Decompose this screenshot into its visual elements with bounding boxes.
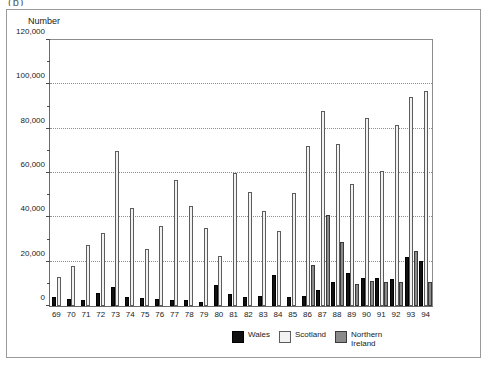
x-axis-tick-label: 90 [362,310,371,319]
bar-group [359,40,374,306]
y-axis-tick-label: 20,000 [21,248,45,257]
bar-wales [170,300,174,306]
y-axis-tick-label: 0 [41,293,45,302]
bar-group [270,40,285,306]
bar-group [182,40,197,306]
bar-group [314,40,329,306]
bar-scotland [365,118,369,306]
figure-panel: Number 020,00040,00060,00080,000100,0001… [6,9,481,358]
bar-wales [52,297,56,306]
x-axis-tick-label: 71 [81,310,90,319]
bar-scotland [101,233,105,306]
bar-scotland [306,146,310,306]
x-axis-tick-label: 87 [318,310,327,319]
bar-nireland [428,282,432,306]
bar-wales [228,294,232,306]
legend-item: Scotland [279,330,326,343]
bar-group [417,40,432,306]
x-axis-tick-label: 84 [273,310,282,319]
x-axis-tick-label: 75 [141,310,150,319]
bar-scotland [262,211,266,306]
x-axis-tick-label: 70 [67,310,76,319]
y-axis-tick-label: 80,000 [21,115,45,124]
bar-group [300,40,315,306]
legend-swatch-wales [232,331,244,343]
bar-scotland [204,228,208,306]
bar-group [168,40,183,306]
bar-wales [243,297,247,306]
bar-scotland [350,184,354,306]
x-axis-tick-label: 74 [126,310,135,319]
bar-wales [346,273,350,306]
bar-scotland [71,266,75,306]
bar-group [329,40,344,306]
bar-wales [140,298,144,306]
bar-group [109,40,124,306]
y-axis-tick-label: 60,000 [21,160,45,169]
bars-layer [50,40,432,306]
bar-wales [302,296,306,306]
legend-label: Northern Ireland [351,330,395,348]
bar-scotland [189,206,193,306]
x-axis-tick-label: 93 [406,310,415,319]
bar-scotland [321,111,325,306]
bar-wales [67,299,71,306]
bar-wales [316,290,320,306]
bar-group [65,40,80,306]
x-axis-tick-label: 92 [392,310,401,319]
x-axis-tick-label: 83 [259,310,268,319]
y-axis-tick-label: 40,000 [21,204,45,213]
x-axis-tick-label: 79 [200,310,209,319]
bar-scotland [115,151,119,306]
bar-scotland [292,193,296,306]
legend-item: Wales [232,330,270,343]
x-axis-tick-label: 80 [214,310,223,319]
bar-scotland [248,192,252,306]
plot-area: 020,00040,00060,00080,000100,000120,000 [49,39,433,307]
bar-scotland [86,245,90,306]
legend-swatch-nireland [335,331,347,343]
bar-group [79,40,94,306]
legend-item: Northern Ireland [335,330,395,348]
bar-wales [287,297,291,306]
bar-scotland [277,231,281,306]
bar-scotland [174,180,178,306]
bar-group [256,40,271,306]
x-axis-tick-label: 88 [333,310,342,319]
bar-wales [111,287,115,306]
bar-group [197,40,212,306]
bar-wales [96,293,100,306]
bar-scotland [145,249,149,306]
legend-label: Scotland [295,330,326,339]
bar-scotland [409,97,413,306]
bar-group [388,40,403,306]
legend-swatch-scotland [279,331,291,343]
bar-scotland [424,91,428,306]
bar-group [241,40,256,306]
x-axis-tick-label: 69 [52,310,61,319]
bar-wales [258,296,262,306]
bar-wales [331,282,335,306]
x-axis-tick-label: 77 [170,310,179,319]
y-axis-tick-label: 100,000 [16,71,45,80]
bar-group [373,40,388,306]
bar-scotland [218,256,222,306]
bar-wales [361,278,365,306]
bar-wales [272,275,276,306]
x-axis-tick-label: 82 [244,310,253,319]
bar-group [403,40,418,306]
x-axis-tick-label: 85 [288,310,297,319]
x-axis-tick-label: 81 [229,310,238,319]
bar-wales [419,261,423,306]
bar-wales [390,279,394,306]
x-axis-tick-label: 72 [96,310,105,319]
bar-wales [405,257,409,306]
x-axis: 6970717273747576777879808182838485868788… [49,310,433,324]
chart-legend: WalesScotlandNorthern Ireland [232,330,395,348]
bar-group [226,40,241,306]
bar-wales [199,302,203,306]
bar-wales [184,300,188,306]
bar-scotland [233,173,237,306]
x-axis-tick-label: 91 [377,310,386,319]
legend-label: Wales [248,330,270,339]
